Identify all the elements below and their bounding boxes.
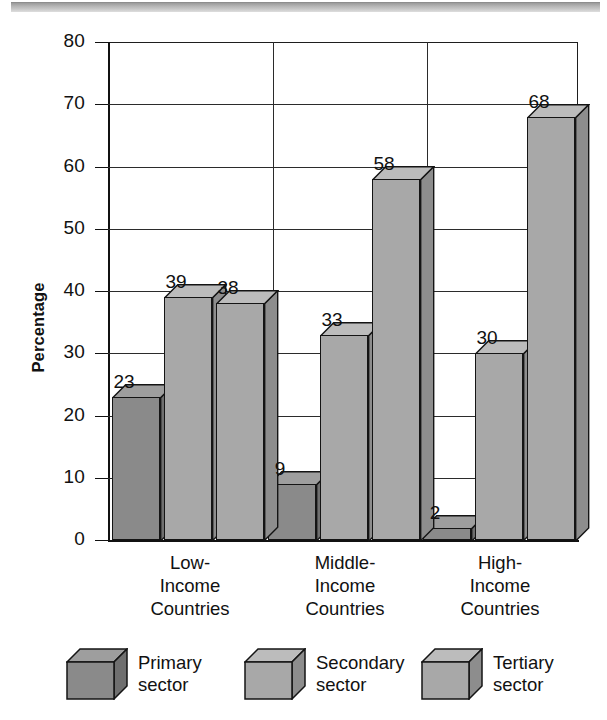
bar-side-face: [420, 166, 433, 540]
category-label-line: Countries: [105, 597, 275, 620]
bar-value-label: 2: [409, 502, 461, 524]
bar-front-face: [112, 397, 160, 540]
y-tick-label-70: 70: [23, 92, 85, 114]
bar: [164, 284, 212, 540]
category-label-line: Countries: [260, 597, 430, 620]
bar-value-label: 30: [461, 327, 513, 349]
legend-swatch-cube-icon: [421, 648, 483, 700]
y-tick-mark-70: [95, 104, 108, 105]
bar-value-label: 23: [98, 371, 150, 393]
category-label-line: Income: [260, 574, 430, 597]
bar-value-label: 39: [150, 271, 202, 293]
legend-label: Tertiarysector: [493, 652, 554, 696]
category-label-line: Middle-: [260, 551, 430, 574]
legend-label-line: Primary: [138, 652, 202, 674]
gridline-y-60: [108, 167, 578, 168]
bar-front-face: [164, 297, 212, 540]
bar: [527, 104, 575, 540]
category-label-2: Middle-IncomeCountries: [260, 551, 430, 620]
bar-front-face: [320, 335, 368, 540]
category-label-line: Low-: [105, 551, 275, 574]
y-tick-mark-50: [95, 229, 108, 230]
bar-front-face: [216, 303, 264, 540]
y-tick-label-10: 10: [23, 466, 85, 488]
bar: [216, 290, 264, 540]
y-tick-mark-20: [95, 416, 108, 417]
legend-label-line: Secondary: [316, 652, 404, 674]
y-tick-label-80: 80: [23, 30, 85, 52]
bar-value-label: 68: [513, 91, 565, 113]
gridline-y-70: [108, 104, 578, 105]
category-label-1: Low-IncomeCountries: [105, 551, 275, 620]
legend-label-line: Tertiary: [493, 652, 554, 674]
category-label-line: Income: [415, 574, 585, 597]
bar-value-label: 38: [202, 277, 254, 299]
x-axis-line: [108, 540, 579, 542]
bar-chart-figure: 80706050403020100 Percentage 23393893358…: [0, 0, 607, 720]
category-label-3: High-IncomeCountries: [415, 551, 585, 620]
category-label-line: Countries: [415, 597, 585, 620]
bar: [372, 166, 420, 540]
category-label-line: Income: [105, 574, 275, 597]
y-tick-label-50: 50: [23, 217, 85, 239]
y-tick-label-0: 0: [23, 528, 85, 550]
bar-side-face: [575, 104, 588, 540]
gridline-y-50: [108, 229, 578, 230]
chart-legend: PrimarysectorSecondarysectorTertiarysect…: [0, 636, 607, 716]
bar-value-label: 9: [254, 458, 306, 480]
legend-label-line: sector: [493, 674, 554, 696]
bar-front-face: [527, 117, 575, 540]
bar-value-label: 58: [358, 153, 410, 175]
y-tick-label-20: 20: [23, 404, 85, 426]
y-tick-mark-0: [95, 540, 108, 541]
bar-front-face: [475, 353, 523, 540]
y-tick-label-60: 60: [23, 155, 85, 177]
y-tick-mark-10: [95, 478, 108, 479]
y-tick-mark-30: [95, 353, 108, 354]
category-label-line: High-: [415, 551, 585, 574]
legend-label: Secondarysector: [316, 652, 404, 696]
bar: [320, 322, 368, 540]
y-tick-mark-80: [95, 42, 108, 43]
legend-label-line: sector: [316, 674, 404, 696]
y-tick-mark-60: [95, 167, 108, 168]
legend-label: Primarysector: [138, 652, 202, 696]
bar-front-face: [372, 179, 420, 540]
y-tick-mark-40: [95, 291, 108, 292]
legend-swatch-cube-icon: [244, 648, 306, 700]
y-axis-label: Percentage: [29, 268, 48, 388]
bar-value-label: 33: [306, 309, 358, 331]
legend-label-line: sector: [138, 674, 202, 696]
bar: [475, 340, 523, 540]
legend-swatch-cube-icon: [66, 648, 128, 700]
bar: [112, 384, 160, 540]
bar-side-face: [264, 290, 277, 540]
